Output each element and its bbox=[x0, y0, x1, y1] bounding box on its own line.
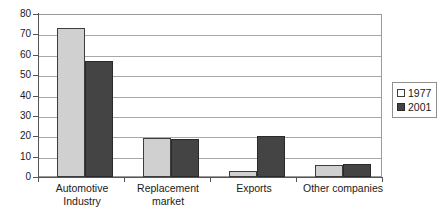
bar-1977-automotive-industry bbox=[57, 28, 85, 177]
chart-legend: 1977 2001 bbox=[392, 82, 437, 118]
bar-1977-exports bbox=[229, 171, 257, 177]
y-tick-70 bbox=[33, 34, 38, 35]
y-tick-label-10: 10 bbox=[4, 152, 31, 162]
y-tick-label-20: 20 bbox=[4, 131, 31, 141]
y-tick-label-80: 80 bbox=[4, 9, 31, 19]
legend-label-2001: 2001 bbox=[408, 102, 431, 113]
bar-2001-automotive-industry bbox=[85, 61, 113, 177]
y-tick-label-0: 0 bbox=[4, 172, 31, 182]
bar-1977-replacement-market bbox=[143, 138, 171, 177]
y-tick-60 bbox=[33, 55, 38, 56]
legend-item-1977: 1977 bbox=[397, 86, 431, 100]
legend-swatch-1977-icon bbox=[397, 89, 405, 97]
bar-chart: 80 70 60 50 40 30 20 10 0 Automotive Ind… bbox=[0, 0, 447, 221]
legend-label-1977: 1977 bbox=[408, 88, 431, 99]
category-label-line-1: Other companies bbox=[295, 182, 391, 195]
legend-item-2001: 2001 bbox=[397, 100, 431, 114]
y-tick-label-50: 50 bbox=[4, 70, 31, 80]
y-tick-label-60: 60 bbox=[4, 50, 31, 60]
y-tick-80 bbox=[33, 14, 38, 15]
category-label-other-companies: Other companies bbox=[295, 182, 391, 195]
bars-layer bbox=[39, 14, 381, 177]
category-label-line-1: Automotive bbox=[39, 182, 125, 195]
y-tick-30 bbox=[33, 116, 38, 117]
category-label-replacement-market: Replacement market bbox=[125, 182, 211, 208]
category-label-automotive-industry: Automotive Industry bbox=[39, 182, 125, 208]
category-label-line-2: Industry bbox=[39, 195, 125, 208]
category-label-line-1: Exports bbox=[211, 182, 297, 195]
y-tick-10 bbox=[33, 157, 38, 158]
y-tick-label-40: 40 bbox=[4, 91, 31, 101]
y-tick-40 bbox=[33, 96, 38, 97]
bar-2001-replacement-market bbox=[171, 139, 199, 177]
bar-2001-exports bbox=[257, 136, 285, 177]
legend-swatch-2001-icon bbox=[397, 103, 405, 111]
category-label-line-1: Replacement bbox=[125, 182, 211, 195]
bar-1977-other-companies bbox=[315, 165, 343, 177]
y-tick-20 bbox=[33, 136, 38, 137]
y-tick-label-30: 30 bbox=[4, 111, 31, 121]
y-tick-50 bbox=[33, 75, 38, 76]
y-tick-label-70: 70 bbox=[4, 29, 31, 39]
category-label-line-2: market bbox=[125, 195, 211, 208]
category-label-exports: Exports bbox=[211, 182, 297, 195]
bar-2001-other-companies bbox=[343, 164, 371, 177]
